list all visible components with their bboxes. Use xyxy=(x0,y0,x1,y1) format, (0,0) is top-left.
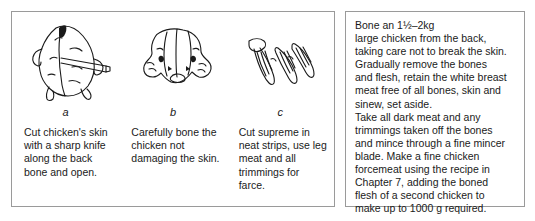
instructions-panel: Bone an 1½–2kg large chicken from the ba… xyxy=(345,11,525,207)
chicken-back-with-knife-illustration xyxy=(24,18,113,106)
boned-chicken-opened-flat-illustration xyxy=(131,18,220,106)
figure-letter-b: b xyxy=(131,106,220,122)
figure-panel: a Cut chicken's skin with a sharp knife … xyxy=(11,11,335,207)
figure-columns: a Cut chicken's skin with a sharp knife … xyxy=(12,12,334,206)
figure-caption-c: Cut supreme in neat strips, use leg meat… xyxy=(239,126,328,192)
figure-caption-a: Cut chicken's skin with a sharp knife al… xyxy=(24,126,113,179)
recipe-figure-page: a Cut chicken's skin with a sharp knife … xyxy=(0,0,535,221)
instructions-text: Bone an 1½–2kg large chicken from the ba… xyxy=(355,19,518,215)
figure-caption-b: Carefully bone the chicken not damaging … xyxy=(131,126,220,166)
figure-letter-c: c xyxy=(239,106,328,122)
figure-step-c: c Cut supreme in neat strips, use leg me… xyxy=(227,18,334,206)
figure-step-b: b Carefully bone the chicken not damagin… xyxy=(119,18,226,206)
figure-step-a: a Cut chicken's skin with a sharp knife … xyxy=(12,18,119,206)
figure-letter-a: a xyxy=(24,106,113,122)
supreme-cut-into-neat-strips-illustration xyxy=(239,18,328,106)
